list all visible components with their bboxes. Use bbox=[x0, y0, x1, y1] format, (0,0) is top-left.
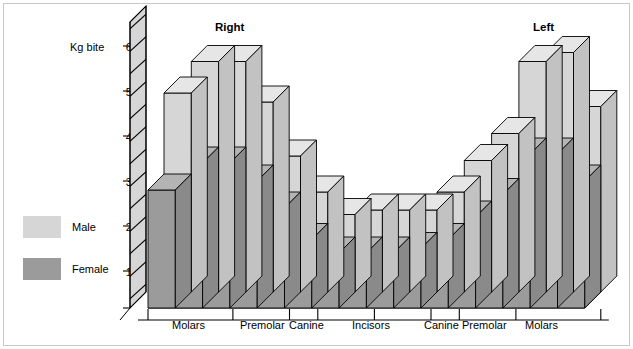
bar-chart-plot bbox=[0, 0, 633, 349]
chart-page: Kg bite Right Left Male Female 60 50 40 … bbox=[0, 0, 633, 349]
